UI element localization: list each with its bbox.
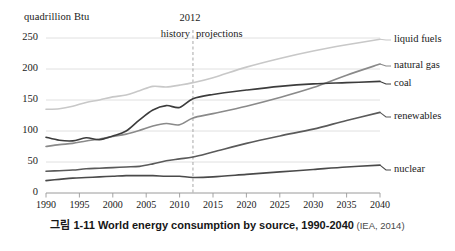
y-tick-label: 100	[8, 124, 38, 135]
series-label-liquid-fuels: liquid fuels	[394, 33, 442, 44]
series-label-natural-gas: natural gas	[394, 59, 440, 70]
y-tick-label: 50	[8, 155, 38, 166]
figure-caption: 그림 1-11 World energy consumption by sour…	[0, 216, 455, 232]
divider-year-annotation: 2012	[166, 12, 214, 23]
y-tick-label: 0	[8, 186, 38, 197]
leader-line-liquid-fuels	[380, 39, 391, 40]
leader-line-natural-gas	[380, 64, 391, 66]
series-lines-group	[46, 39, 380, 180]
label-leader-lines-group	[380, 39, 391, 170]
history-region-annotation: history	[142, 28, 190, 39]
x-tick-label: 2040	[360, 199, 400, 210]
series-line-nuclear	[46, 165, 380, 181]
series-label-coal: coal	[394, 77, 412, 88]
y-tick-label: 250	[8, 31, 38, 42]
figure-container: quadrillion Btu 050100150200250 19901995…	[0, 0, 455, 251]
caption-figure-number: 그림 1-11	[50, 219, 94, 231]
y-axis-unit-label: quadrillion Btu	[24, 11, 89, 22]
caption-title: World energy consumption by source, 1990…	[98, 219, 354, 231]
series-line-natural-gas	[46, 64, 380, 146]
series-line-liquid-fuels	[46, 39, 380, 109]
leader-line-renewables	[380, 112, 391, 117]
y-tick-label: 150	[8, 93, 38, 104]
gridlines-group	[46, 38, 380, 193]
series-label-nuclear: nuclear	[394, 163, 425, 174]
caption-source: (IEA, 2014)	[357, 220, 405, 231]
leader-line-coal	[380, 81, 391, 84]
x-tick-marks-group	[46, 193, 380, 198]
projections-region-annotation: projections	[196, 28, 243, 39]
y-tick-label: 200	[8, 62, 38, 73]
leader-line-nuclear	[380, 165, 391, 170]
series-line-renewables	[46, 112, 380, 171]
series-line-coal	[46, 81, 380, 141]
series-label-renewables: renewables	[394, 110, 441, 121]
